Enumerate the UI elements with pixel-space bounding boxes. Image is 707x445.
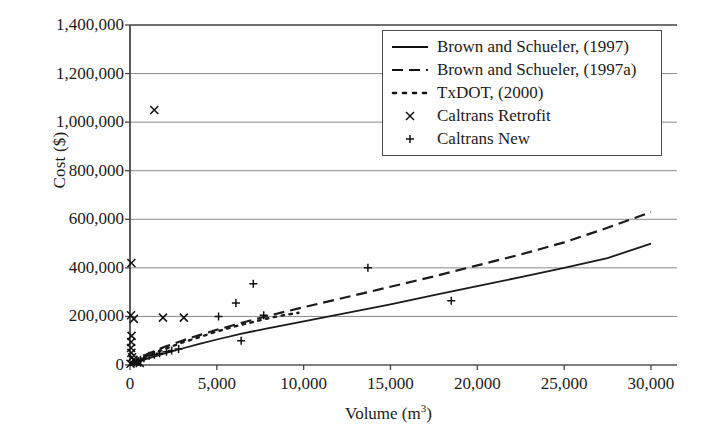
legend-key-dashed (389, 58, 431, 81)
legend-key-svg (389, 104, 431, 127)
legend-item[interactable]: Caltrans New (389, 127, 655, 150)
legend-item-label: Caltrans Retrofit (437, 106, 551, 125)
legend-key-svg (389, 35, 431, 58)
legend-key-svg (389, 127, 431, 150)
data-point-marker (249, 280, 257, 288)
data-point-marker (150, 106, 158, 114)
legend-item[interactable]: Brown and Schueler, (1997a) (389, 58, 655, 81)
data-point-marker (237, 337, 245, 345)
series-line-solid (130, 244, 651, 365)
chart-figure: Cost ($) 0200,000400,000600,000800,0001,… (0, 0, 707, 445)
series-markers-plus (130, 264, 455, 366)
data-point-marker (127, 259, 135, 267)
legend-item-label: Caltrans New (437, 129, 530, 148)
legend-key-svg (389, 58, 431, 81)
data-point-marker (159, 314, 167, 322)
x-axis-title-base: Volume (m (345, 404, 421, 423)
legend-key-marker-plus (389, 127, 431, 150)
data-point-marker (180, 314, 188, 322)
data-point-marker (232, 299, 240, 307)
data-point-marker (215, 312, 223, 320)
data-point-marker (447, 297, 455, 305)
legend-item[interactable]: Caltrans Retrofit (389, 104, 655, 127)
x-axis-title-tail: ) (426, 404, 432, 423)
legend-item-label: Brown and Schueler, (1997a) (437, 60, 636, 79)
legend-item[interactable]: Brown and Schueler, (1997) (389, 35, 655, 58)
legend-item-label: TxDOT, (2000) (437, 83, 543, 102)
legend-key-glyph (406, 112, 414, 120)
x-axis-title: Volume (m3) (0, 404, 707, 424)
legend-key-marker-x (389, 104, 431, 127)
legend-key-glyph (406, 135, 414, 143)
data-point-marker (364, 264, 372, 272)
series-markers-x (127, 106, 188, 368)
legend-item[interactable]: TxDOT, (2000) (389, 81, 655, 104)
legend-item-label: Brown and Schueler, (1997) (437, 37, 629, 56)
legend-key-dotted (389, 81, 431, 104)
legend-key-svg (389, 81, 431, 104)
chart-legend: Brown and Schueler, (1997)Brown and Schu… (382, 30, 662, 156)
legend-key-solid (389, 35, 431, 58)
